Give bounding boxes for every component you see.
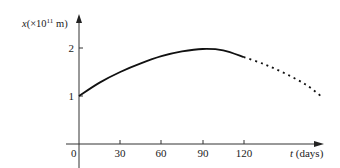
y-axis-label: x(×1011 m) [22, 16, 68, 29]
series-line-dotted [244, 57, 322, 97]
x-tick-label-60: 60 [156, 147, 168, 159]
x-tick-label-90: 90 [198, 147, 210, 159]
x-tick-label-120: 120 [236, 147, 253, 159]
x-axis [66, 140, 324, 147]
y-axis-unit-suffix: m) [53, 18, 67, 29]
x-axis-unit: (days) [293, 147, 323, 159]
x-tick-label-30: 30 [115, 147, 127, 159]
y-tick-label-1: 1 [69, 90, 75, 102]
y-axis-unit-prefix: (×10 [27, 18, 47, 29]
x-origin-label: 0 [71, 147, 77, 159]
series-line-solid [79, 49, 244, 96]
y-tick-label-2: 2 [69, 42, 75, 54]
y-axis [76, 14, 83, 168]
y-axis-arrow-icon [76, 14, 82, 23]
x-axis-label: t (days) [290, 148, 323, 159]
